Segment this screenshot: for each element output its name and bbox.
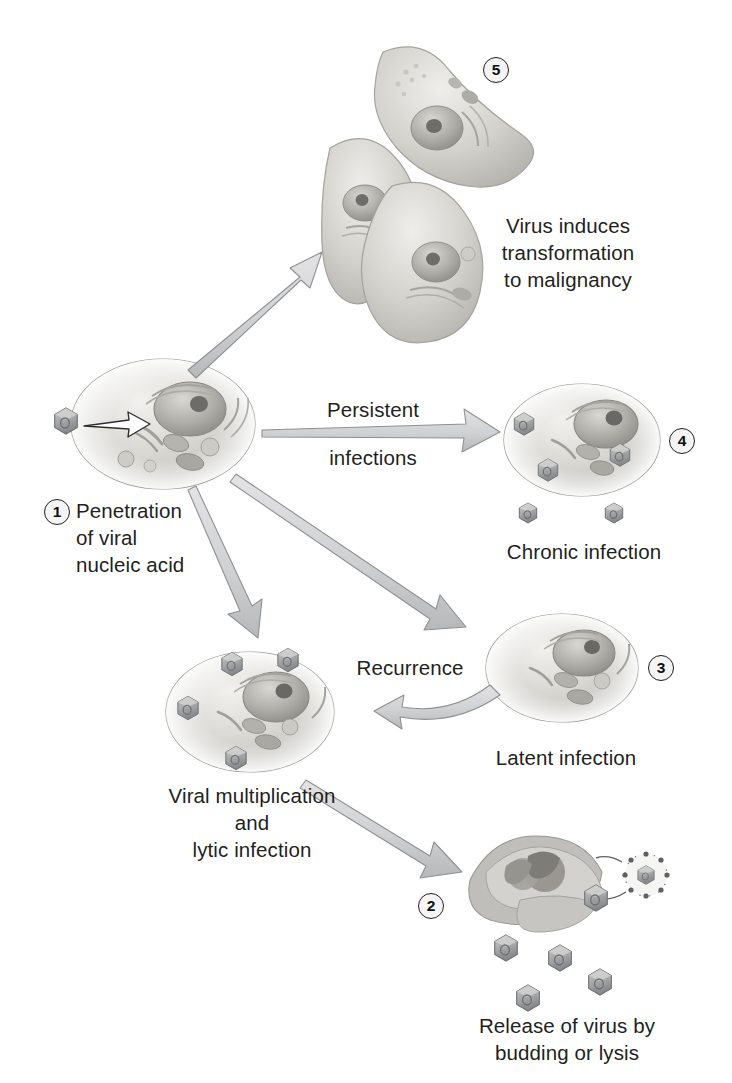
label-persistent-line2: infections: [298, 444, 448, 471]
label-chronic-infection: Chronic infection: [462, 538, 706, 565]
label-latent-infection: Latent infection: [448, 744, 684, 771]
label-lytic-infection: Viral multiplication and lytic infection: [128, 782, 376, 863]
step-badge-3[interactable]: 3: [648, 655, 674, 681]
step-badge-2[interactable]: 2: [418, 893, 444, 919]
label-release: Release of virus by budding or lysis: [436, 1012, 698, 1066]
virus-infection-outcome-diagram: 5 4 3 1 2 Penetration of viral nucleic a…: [0, 0, 732, 1083]
cell-lysis-release: [469, 836, 670, 1011]
cell-chronic-infection: [504, 384, 660, 523]
label-penetration: Penetration of viral nucleic acid: [76, 497, 246, 578]
arrow-to-transformation: [188, 252, 322, 378]
step-badge-4[interactable]: 4: [669, 428, 695, 454]
cell-latent-infection: [486, 614, 638, 722]
step-badge-5[interactable]: 5: [483, 57, 509, 83]
cell-lytic-multiplication: [166, 648, 334, 772]
cells-transformed: [322, 47, 534, 343]
label-recurrence: Recurrence: [330, 654, 490, 681]
label-transformation: Virus induces transformation to malignan…: [452, 212, 684, 293]
arrow-recurrence: [374, 685, 500, 729]
label-persistent-line1: Persistent: [298, 396, 448, 423]
step-badge-1[interactable]: 1: [44, 499, 70, 525]
arrow-to-latent: [230, 474, 466, 630]
